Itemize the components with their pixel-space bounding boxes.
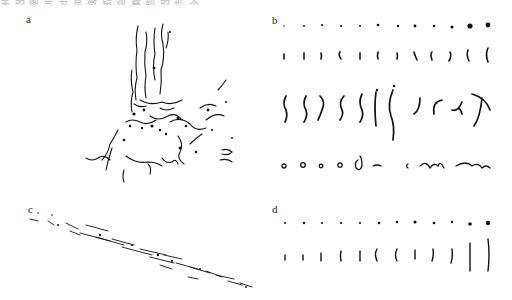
caption-fragment: 关 的 图 片 为 显 微 镜 观 察 到 的 形 态 [0,0,200,5]
panel-b: b [260,10,512,195]
panel-a-figure [0,10,260,195]
panel-d: d [260,195,512,300]
panel-c: c [0,195,270,300]
panel-c-figure [0,195,270,300]
panel-a: a [0,10,260,195]
panel-d-figure [260,195,512,300]
panel-b-figure [260,10,512,195]
